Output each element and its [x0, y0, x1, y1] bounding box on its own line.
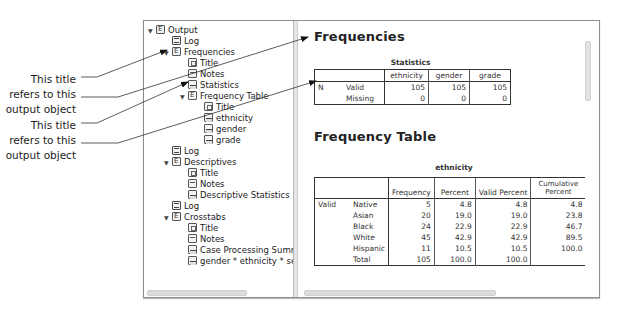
expand-triangle-icon[interactable]: ▼	[180, 90, 188, 103]
table-cell: Black	[350, 221, 389, 232]
tree-item-label: Log	[184, 201, 199, 211]
table-row: Valid Native 5 4.8 4.8 4.8	[315, 199, 586, 211]
table-cell: 11	[389, 243, 435, 254]
tree-item-label: Title	[200, 58, 218, 68]
table-cell: 89.5	[531, 232, 586, 243]
table-row: Black 24 22.9 22.9 46.7	[315, 221, 586, 232]
table-cell: 10.5	[475, 243, 531, 254]
table-cell: 4.8	[531, 199, 586, 211]
table-row: Total 105 100.0 100.0	[315, 254, 586, 266]
log-icon	[172, 201, 181, 210]
table-cell: 105	[429, 82, 470, 94]
tree-item-label: Title	[216, 102, 234, 112]
callout-line: output object	[0, 102, 76, 117]
table-cell: 105	[385, 82, 429, 94]
expand-triangle-icon[interactable]: ▼	[164, 46, 172, 59]
table-header-cell: ethnicity	[385, 70, 429, 82]
expand-triangle-icon[interactable]: ▼	[164, 211, 172, 224]
table-icon	[204, 135, 213, 144]
table-cell: N	[315, 82, 344, 94]
tree-item-label: Log	[184, 146, 199, 156]
ethnicity-caption: ethnicity	[314, 163, 594, 172]
tree-item-label: Crosstabs	[184, 212, 226, 222]
table-cell: 45	[389, 232, 435, 243]
callout-line: refers to this	[0, 133, 76, 148]
title-icon	[204, 102, 213, 111]
table-cell: Missing	[343, 93, 385, 105]
outline-pane: ▼Output Log ▼Frequencies Title Notes Sta…	[144, 21, 293, 297]
table-cell	[315, 243, 351, 254]
log-icon	[172, 146, 181, 155]
table-icon	[204, 124, 213, 133]
table-cell: 19.0	[475, 210, 531, 221]
log-icon	[172, 36, 181, 45]
tree-item-label: Notes	[200, 179, 225, 189]
callout-label-2: This title refers to this output object	[0, 118, 76, 163]
tree-item-label: grade	[216, 135, 241, 145]
tree-item-descriptive-statistics[interactable]: Descriptive Statistics	[188, 189, 290, 202]
table-header-cell	[343, 70, 385, 82]
table-cell: 4.8	[475, 199, 531, 211]
table-header-row: ethnicity gender grade	[315, 70, 511, 82]
table-icon	[188, 256, 197, 265]
table-row: Missing 0 0 0	[315, 93, 511, 105]
table-cell: 22.9	[475, 221, 531, 232]
tree-item-grade[interactable]: grade	[204, 134, 241, 147]
table-cell: Valid	[315, 199, 351, 211]
callout-line: output object	[0, 148, 76, 163]
table-cell: 0	[429, 93, 470, 105]
table-cell: 22.9	[434, 221, 475, 232]
table-cell: 42.9	[475, 232, 531, 243]
content-horizontal-scrollbar[interactable]	[304, 290, 496, 296]
content-pane: Frequencies Statistics ethnicity gender …	[298, 21, 599, 297]
table-cell: 20	[389, 210, 435, 221]
tree-item-label: Output	[168, 25, 198, 35]
table-header-cell: gender	[429, 70, 470, 82]
statistics-table: ethnicity gender grade N Valid 105 105 1…	[314, 69, 511, 105]
tree-item-label: Log	[184, 36, 199, 46]
tree-item-label: gender	[216, 124, 246, 134]
book-icon	[172, 212, 181, 221]
table-cell: 100.0	[475, 254, 531, 266]
table-cell: 23.8	[531, 210, 586, 221]
table-row: Hispanic 11 10.5 10.5 100.0	[315, 243, 586, 254]
table-cell: 105	[470, 82, 511, 94]
table-cell: 5	[389, 199, 435, 211]
book-icon	[172, 47, 181, 56]
notes-icon	[188, 234, 197, 243]
callout-line: This title	[0, 72, 76, 87]
book-icon	[172, 157, 181, 166]
tree-item-crosstab-table[interactable]: gender * ethnicity * secti	[188, 255, 293, 268]
statistics-caption: Statistics	[314, 58, 507, 67]
table-cell: 46.7	[531, 221, 586, 232]
table-header-cell	[350, 178, 389, 199]
tree-item-label: gender * ethnicity * secti	[200, 256, 293, 266]
tree-item-label: Notes	[200, 69, 225, 79]
tree-item-label: Title	[200, 168, 218, 178]
tree-item-label: Descriptive Statistics	[200, 190, 290, 200]
table-row: White 45 42.9 42.9 89.5	[315, 232, 586, 243]
table-cell: 42.9	[434, 232, 475, 243]
book-icon	[188, 91, 197, 100]
content-vertical-scrollbar[interactable]	[585, 41, 591, 101]
table-icon	[188, 245, 197, 254]
table-cell: 4.8	[434, 199, 475, 211]
table-header-cell: Cumulative Percent	[531, 178, 586, 199]
table-cell: 0	[470, 93, 511, 105]
outline-horizontal-scrollbar[interactable]	[147, 290, 247, 296]
expand-triangle-icon[interactable]: ▼	[164, 156, 172, 169]
table-cell: 105	[389, 254, 435, 266]
heading-frequencies: Frequencies	[314, 29, 405, 44]
table-header-cell: Valid Percent	[475, 178, 531, 199]
table-cell: 100.0	[434, 254, 475, 266]
tree-item-label: Descriptives	[184, 157, 237, 167]
title-icon	[188, 58, 197, 67]
table-cell	[315, 232, 351, 243]
expand-triangle-icon[interactable]: ▼	[148, 24, 156, 37]
tree-item-label: ethnicity	[216, 113, 253, 123]
table-header-row: Frequency Percent Valid Percent Cumulati…	[315, 178, 586, 199]
table-cell	[315, 221, 351, 232]
tree-item-label: Frequency Table	[200, 91, 269, 101]
tree-item-label: Title	[200, 223, 218, 233]
table-cell: 10.5	[434, 243, 475, 254]
